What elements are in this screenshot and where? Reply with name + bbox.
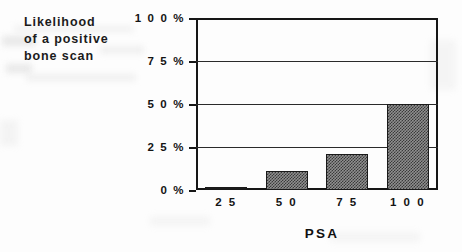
scan-artifact-smudge (0, 120, 18, 146)
bar (387, 104, 429, 190)
x-tick-label: 7 5 (336, 196, 358, 208)
y-tick-mark (189, 190, 196, 192)
bar (205, 187, 247, 190)
scan-artifact-smudge (6, 64, 32, 73)
y-tick-label: 5 0 % (148, 98, 185, 110)
y-tick-label: 7 5 % (148, 55, 185, 67)
x-tick-label: 5 0 (276, 196, 298, 208)
caption-line-2: of a positive (24, 31, 154, 48)
bar-chart-figure: Likelihood of a positive bone scan 0 %2 … (0, 0, 462, 252)
y-tick-label: 1 0 0 % (135, 12, 185, 24)
y-tick-mark (189, 18, 196, 20)
x-axis-title: PSA (305, 226, 339, 241)
scan-artifact-smudge (26, 74, 136, 81)
y-tick-mark (189, 61, 196, 63)
plot-area: 0 %2 5 %5 0 %7 5 %1 0 0 % (196, 18, 438, 190)
x-tick-label: 1 0 0 (390, 196, 426, 208)
scan-artifact-smudge (150, 216, 210, 226)
x-tick-label: 2 5 (215, 196, 237, 208)
scan-artifact-smudge (330, 232, 420, 242)
y-tick-label: 2 5 % (148, 141, 185, 153)
gridline (196, 61, 438, 62)
y-tick-mark (189, 104, 196, 106)
y-tick-mark (189, 147, 196, 149)
bar (326, 154, 368, 190)
y-tick-label: 0 % (160, 184, 185, 196)
caption-line-3: bone scan (24, 48, 154, 65)
bar (266, 171, 308, 190)
